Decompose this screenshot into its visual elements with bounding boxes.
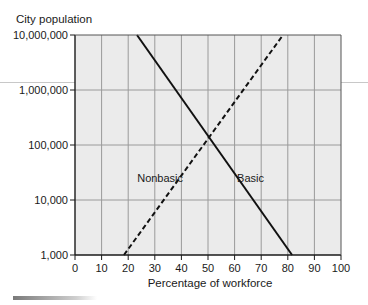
- y-tick-label: 100,000: [28, 139, 68, 151]
- x-tick-label: 20: [122, 262, 134, 274]
- series-label-basic: Basic: [237, 172, 264, 184]
- x-tick-label: 60: [228, 262, 240, 274]
- y-tick-label: 10,000: [34, 194, 68, 206]
- x-tick-label: 10: [95, 262, 107, 274]
- x-tick-label: 80: [282, 262, 294, 274]
- x-tick-label: 0: [72, 262, 78, 274]
- decorative-gradient-bar: [13, 296, 97, 300]
- x-axis-title: Percentage of workforce: [148, 277, 273, 289]
- x-tick-label: 50: [202, 262, 214, 274]
- y-tick-label: 1,000,000: [19, 84, 68, 96]
- y-tick-label: 10,000,000: [13, 29, 68, 41]
- x-tick-label: 90: [308, 262, 320, 274]
- x-tick-label: 30: [149, 262, 161, 274]
- y-tick-label: 1,000: [40, 249, 68, 261]
- chart: 01020304050607080901001,00010,000100,000…: [0, 0, 368, 305]
- x-tick-label: 70: [255, 262, 267, 274]
- series-label-nonbasic: Nonbasic: [137, 172, 183, 184]
- x-tick-label: 100: [332, 262, 350, 274]
- y-axis-title: City population: [16, 13, 92, 25]
- x-tick-label: 40: [175, 262, 187, 274]
